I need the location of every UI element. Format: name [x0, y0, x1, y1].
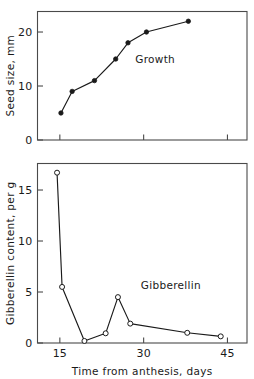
data-point	[115, 295, 120, 300]
data-point	[144, 30, 148, 34]
y-tick-label-20: 20	[18, 26, 32, 39]
figure-canvas: 01020Seed size, mmGrowth 153045051015Gib…	[0, 0, 254, 379]
data-point	[103, 331, 108, 336]
y-axis-title: Gibberellin content, per g	[4, 181, 16, 325]
data-point	[186, 19, 190, 23]
y-tick-label-0: 0	[25, 337, 32, 350]
data-point	[185, 330, 190, 335]
data-point	[55, 170, 60, 175]
data-point	[82, 338, 87, 343]
data-point	[218, 334, 223, 339]
y-axis-title: Seed size, mm	[4, 35, 16, 117]
data-point	[59, 111, 63, 115]
y-tick-label-10: 10	[18, 80, 32, 93]
data-point	[128, 321, 133, 326]
x-tick-label-30: 30	[136, 347, 150, 360]
y-tick-label-5: 5	[25, 286, 32, 299]
data-point	[126, 41, 130, 45]
y-tick-label-10: 10	[18, 235, 32, 248]
x-tick-label-15: 15	[53, 347, 67, 360]
series-annotation: Growth	[135, 53, 175, 65]
data-point	[92, 78, 96, 82]
y-tick-label-15: 15	[18, 184, 32, 197]
data-point	[60, 284, 65, 289]
data-point	[114, 57, 118, 61]
y-tick-label-0: 0	[25, 134, 32, 147]
series-annotation: Gibberellin	[141, 279, 201, 291]
data-point	[70, 89, 74, 93]
x-axis-title: Time from anthesis, days	[71, 365, 213, 377]
x-tick-label-45: 45	[220, 347, 234, 360]
seed-growth-gibberellin-figure: 01020Seed size, mmGrowth 153045051015Gib…	[0, 0, 254, 379]
